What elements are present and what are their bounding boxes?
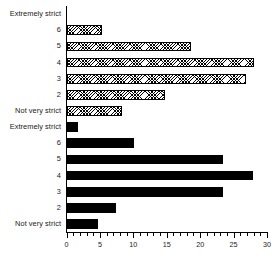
upper-row-label: 6: [0, 22, 61, 38]
x-axis-minor-tick: [173, 233, 174, 236]
x-axis-tick-label: 5: [90, 240, 110, 249]
lower-row-2: 2: [0, 200, 276, 216]
x-axis-minor-tick: [247, 233, 248, 236]
x-axis-tick-label: 0: [57, 240, 77, 249]
x-axis-major-tick: [234, 233, 235, 238]
upper-row-extremely-strict: Extremely strict: [0, 6, 276, 22]
lower-bar: [67, 155, 223, 165]
upper-row-label: Extremely strict: [0, 6, 61, 22]
x-axis-minor-tick: [80, 233, 81, 236]
x-axis-minor-tick: [214, 233, 215, 236]
x-axis-major-tick: [167, 233, 168, 238]
upper-row-label: 5: [0, 38, 61, 54]
x-axis-minor-tick: [193, 233, 194, 236]
upper-row-label: Not very strict: [0, 103, 61, 119]
x-axis-minor-tick: [180, 233, 181, 236]
lower-panel: Extremely strict 6 5 4 3 2 Not very stri…: [0, 119, 276, 232]
x-axis-minor-tick: [113, 233, 114, 236]
lower-row-3: 3: [0, 184, 276, 200]
upper-panel: Extremely strict 6 5 4 3 2 Not very stri…: [0, 6, 276, 119]
x-axis-major-tick: [67, 233, 68, 238]
lower-row-label: 5: [0, 151, 61, 167]
x-axis-minor-tick: [227, 233, 228, 236]
upper-row-4: 4: [0, 55, 276, 71]
lower-row-label: 6: [0, 135, 61, 151]
upper-row-2: 2: [0, 87, 276, 103]
x-axis-minor-tick: [187, 233, 188, 236]
lower-row-label: 2: [0, 200, 61, 216]
x-axis-minor-tick: [120, 233, 121, 236]
x-axis-major-tick: [267, 233, 268, 238]
x-axis-minor-tick: [207, 233, 208, 236]
x-axis-tick-label: 15: [157, 240, 177, 249]
horizontal-bar-chart: Extremely strict 6 5 4 3 2 Not very stri…: [0, 0, 276, 259]
lower-row-not-very-strict: Not very strict: [0, 216, 276, 232]
lower-row-4: 4: [0, 168, 276, 184]
lower-row-extremely-strict: Extremely strict: [0, 119, 276, 135]
upper-bar: [67, 58, 254, 68]
x-axis-minor-tick: [220, 233, 221, 236]
x-axis-minor-tick: [153, 233, 154, 236]
lower-row-label: Extremely strict: [0, 119, 61, 135]
x-axis-major-tick: [133, 233, 134, 238]
x-axis-minor-tick: [107, 233, 108, 236]
x-axis-major-tick: [100, 233, 101, 238]
x-axis-minor-tick: [127, 233, 128, 236]
x-axis-minor-tick: [73, 233, 74, 236]
upper-row-not-very-strict: Not very strict: [0, 103, 276, 119]
upper-row-label: 4: [0, 55, 61, 71]
lower-bar: [67, 219, 98, 229]
x-axis-minor-tick: [147, 233, 148, 236]
lower-row-6: 6: [0, 135, 276, 151]
upper-bar: [67, 106, 122, 116]
lower-row-5: 5: [0, 151, 276, 167]
upper-row-3: 3: [0, 71, 276, 87]
lower-row-label: Not very strict: [0, 216, 61, 232]
upper-row-label: 3: [0, 71, 61, 87]
lower-bar: [67, 171, 253, 181]
lower-bar: [67, 203, 116, 213]
x-axis-minor-tick: [240, 233, 241, 236]
x-axis-minor-tick: [93, 233, 94, 236]
upper-bar: [67, 90, 165, 100]
lower-row-label: 3: [0, 184, 61, 200]
upper-row-5: 5: [0, 38, 276, 54]
upper-row-label: 2: [0, 87, 61, 103]
x-axis-minor-tick: [140, 233, 141, 236]
x-axis-minor-tick: [254, 233, 255, 236]
upper-row-6: 6: [0, 22, 276, 38]
x-axis-minor-tick: [160, 233, 161, 236]
x-axis-tick-label: 25: [224, 240, 244, 249]
x-axis-tick-label: 30: [257, 240, 276, 249]
lower-bar: [67, 138, 134, 148]
lower-bar: [67, 187, 223, 197]
x-axis-tick-label: 10: [123, 240, 143, 249]
x-axis-tick-label: 20: [190, 240, 210, 249]
upper-bar: [67, 74, 246, 84]
lower-row-label: 4: [0, 168, 61, 184]
x-axis-minor-tick: [260, 233, 261, 236]
upper-bar: [67, 42, 191, 52]
upper-bar: [67, 25, 102, 35]
lower-bar: [67, 122, 78, 132]
x-axis: 051015202530: [0, 232, 276, 259]
x-axis-minor-tick: [87, 233, 88, 236]
x-axis-major-tick: [200, 233, 201, 238]
